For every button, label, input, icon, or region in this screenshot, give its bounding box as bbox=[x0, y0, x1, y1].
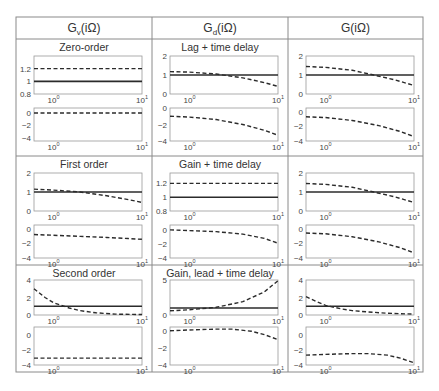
magnitude-axes: 0.811.2100101 bbox=[20, 56, 148, 105]
y-tick-label: −2 bbox=[294, 239, 304, 248]
column-headers: Gv(iΩ)Gd(iΩ)G(iΩ) bbox=[68, 21, 370, 37]
x-tick-label: 100 bbox=[48, 141, 60, 152]
panel-r2-c0: Second order024100101−4−20100101 bbox=[22, 267, 148, 376]
magnitude-axes: 012100101 bbox=[299, 169, 420, 222]
phase-axes: −4−20100101 bbox=[158, 104, 284, 152]
y-tick-label: −2 bbox=[22, 346, 32, 355]
x-tick-label: 101 bbox=[272, 94, 284, 105]
x-tick-label: 100 bbox=[184, 211, 196, 222]
panel-title: Gain, lead + time delay bbox=[166, 267, 274, 279]
y-tick-label: 0 bbox=[299, 225, 304, 234]
y-tick-label: 0 bbox=[299, 108, 304, 117]
magnitude-axes: 05100101 bbox=[163, 276, 284, 326]
panel-r0-c2: 012100101−4−20100101 bbox=[294, 52, 420, 152]
plot-panels: Zero-order0.811.2100101−4−20100101Lag + … bbox=[20, 41, 420, 376]
panel-r0-c1: Lag + time delay012100101−4−20100101 bbox=[158, 41, 284, 152]
y-tick-label: 0 bbox=[299, 311, 304, 320]
x-tick-label: 101 bbox=[408, 315, 420, 326]
magnitude-axes: 012100101 bbox=[163, 52, 284, 105]
y-tick-label: 1 bbox=[299, 71, 304, 80]
y-tick-label: 5 bbox=[163, 276, 168, 285]
x-tick-label: 100 bbox=[48, 94, 60, 105]
y-tick-label: −2 bbox=[294, 346, 304, 355]
x-tick-label: 100 bbox=[320, 211, 332, 222]
x-tick-label: 100 bbox=[184, 94, 196, 105]
y-tick-label: 0.8 bbox=[156, 207, 168, 216]
x-tick-label: 101 bbox=[408, 94, 420, 105]
phase-axes: −4−20100101 bbox=[294, 327, 420, 376]
panel-title: Gain + time delay bbox=[179, 158, 262, 170]
phase-axes: −4−20100101 bbox=[158, 225, 284, 269]
x-tick-label: 101 bbox=[408, 365, 420, 376]
y-tick-label: −2 bbox=[294, 122, 304, 131]
y-tick-label: 0 bbox=[27, 207, 32, 216]
y-tick-label: −2 bbox=[22, 239, 32, 248]
panel-title: First order bbox=[60, 158, 108, 170]
y-tick-label: 2 bbox=[299, 294, 304, 303]
y-tick-label: 2 bbox=[27, 294, 32, 303]
y-tick-label: −4 bbox=[158, 254, 168, 263]
y-tick-label: 0 bbox=[27, 109, 32, 118]
magnitude-axes: 012100101 bbox=[299, 52, 420, 105]
x-tick-label: 101 bbox=[136, 94, 148, 105]
y-tick-label: 1 bbox=[163, 71, 168, 80]
x-tick-label: 100 bbox=[48, 365, 60, 376]
y-tick-label: 4 bbox=[27, 276, 32, 285]
y-tick-label: 0 bbox=[299, 207, 304, 216]
y-tick-label: 2 bbox=[27, 169, 32, 178]
x-tick-label: 100 bbox=[184, 365, 196, 376]
x-tick-label: 101 bbox=[408, 141, 420, 152]
panel-r1-c2: 012100101−4−20100101 bbox=[294, 169, 420, 269]
y-tick-label: −2 bbox=[158, 121, 168, 130]
y-tick-label: −4 bbox=[22, 254, 32, 263]
y-tick-label: 2 bbox=[299, 169, 304, 178]
x-tick-label: 101 bbox=[136, 258, 148, 269]
panel-r1-c0: First order012100101−4−20100101 bbox=[22, 158, 148, 269]
x-tick-label: 101 bbox=[408, 211, 420, 222]
x-tick-label: 101 bbox=[272, 141, 284, 152]
x-tick-label: 101 bbox=[272, 211, 284, 222]
y-tick-label: 0 bbox=[299, 90, 304, 99]
x-tick-label: 100 bbox=[184, 141, 196, 152]
phase-axes: −4−20100101 bbox=[158, 327, 284, 376]
y-tick-label: −4 bbox=[158, 361, 168, 370]
y-tick-label: 0 bbox=[27, 225, 32, 234]
y-tick-label: 4 bbox=[299, 276, 304, 285]
y-tick-label: 0 bbox=[299, 331, 304, 340]
y-tick-label: −4 bbox=[22, 361, 32, 370]
panel-r2-c2: 024100101−4−20100101 bbox=[294, 276, 420, 376]
y-tick-label: −4 bbox=[294, 254, 304, 263]
y-tick-label: 0 bbox=[27, 331, 32, 340]
panel-title: Lag + time delay bbox=[181, 41, 259, 53]
x-tick-label: 100 bbox=[320, 141, 332, 152]
phase-axes: −4−20100101 bbox=[22, 327, 148, 376]
magnitude-axes: 024100101 bbox=[27, 276, 148, 326]
phase-axes: −4−20100101 bbox=[294, 108, 420, 152]
y-tick-label: −4 bbox=[294, 361, 304, 370]
y-tick-label: 1 bbox=[27, 188, 32, 197]
y-tick-label: −2 bbox=[158, 344, 168, 353]
panel-title: Zero-order bbox=[59, 41, 109, 53]
x-tick-label: 100 bbox=[320, 315, 332, 326]
magnitude-axes: 012100101 bbox=[27, 169, 148, 222]
column-header-0: Gv(iΩ) bbox=[68, 21, 101, 37]
x-tick-label: 101 bbox=[136, 141, 148, 152]
phase-axes: −4−20100101 bbox=[22, 108, 148, 152]
magnitude-axes: 024100101 bbox=[299, 276, 420, 326]
column-header-1: Gd(iΩ) bbox=[203, 21, 236, 37]
y-tick-label: −4 bbox=[158, 137, 168, 146]
y-tick-label: 0 bbox=[163, 327, 168, 336]
y-tick-label: 0 bbox=[163, 90, 168, 99]
panel-r0-c0: Zero-order0.811.2100101−4−20100101 bbox=[20, 41, 148, 152]
x-tick-label: 100 bbox=[320, 94, 332, 105]
y-tick-label: 1.2 bbox=[156, 179, 168, 188]
y-tick-label: 1 bbox=[299, 188, 304, 197]
y-tick-label: 2 bbox=[163, 52, 168, 61]
y-tick-label: 1 bbox=[163, 193, 168, 202]
magnitude-axes: 0.811.2100101 bbox=[156, 173, 284, 222]
panel-r2-c1: Gain, lead + time delay05100101−4−201001… bbox=[158, 267, 284, 376]
y-tick-label: 2 bbox=[299, 52, 304, 61]
x-tick-label: 101 bbox=[408, 258, 420, 269]
y-tick-label: 0 bbox=[163, 226, 168, 235]
phase-axes: −4−20100101 bbox=[294, 225, 420, 269]
